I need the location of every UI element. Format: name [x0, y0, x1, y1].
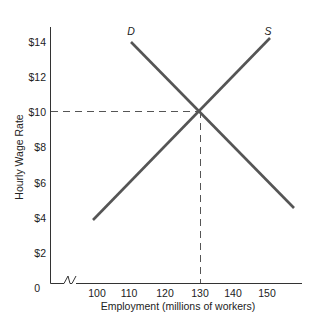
y-tick: $8 [34, 141, 46, 153]
y-axis-title: Hourly Wage Rate [13, 114, 25, 200]
x-tick: 140 [224, 287, 242, 299]
demand-curve-label: D [127, 25, 135, 37]
x-tick: 150 [258, 287, 276, 299]
y-tick: 0 [34, 282, 40, 294]
x-tick: 120 [156, 287, 174, 299]
demand-curve [131, 42, 294, 208]
x-tick: 100 [88, 287, 106, 299]
y-tick: $6 [34, 177, 46, 189]
supply-curve-label: S [264, 25, 271, 37]
x-axis-title: Employment (millions of workers) [101, 300, 256, 312]
x-tick: 110 [121, 287, 138, 299]
x-tick: 130 [191, 287, 209, 299]
supply-curve [93, 38, 270, 220]
axis-break-icon [51, 276, 77, 284]
y-tick: $10 [28, 106, 46, 118]
y-tick: $4 [34, 212, 46, 224]
supply-demand-chart: 0 $2 $4 $6 $8 $10 $12 $14 100 110 120 13… [0, 0, 314, 316]
y-tick-labels: 0 $2 $4 $6 $8 $10 $12 $14 [28, 36, 46, 294]
y-tick: $12 [28, 71, 46, 83]
y-tick: $2 [34, 247, 46, 259]
x-tick-labels: 100 110 120 130 140 150 [88, 287, 276, 299]
y-tick: $14 [28, 36, 46, 48]
